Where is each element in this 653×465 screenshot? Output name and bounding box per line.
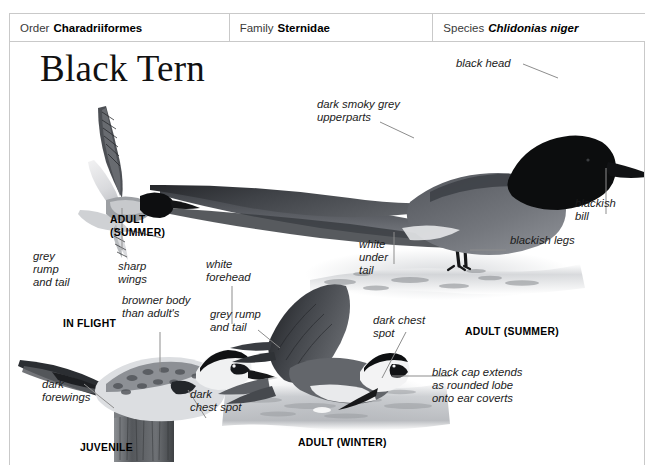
label-sharp-wings: sharp wings xyxy=(118,260,147,286)
taxonomy-header: Order Charadriiformes Family Sternidae S… xyxy=(9,13,645,42)
label-grey-rump-tail-flight: grey rump and tail xyxy=(33,250,69,290)
label-dark-forewings: dark forewings xyxy=(42,378,90,404)
label-dark-chest-spot-juv: dark chest spot xyxy=(190,388,242,414)
taxonomy-value-family: Sternidae xyxy=(278,22,330,34)
taxonomy-value-species: Chlidonias niger xyxy=(488,22,578,34)
taxonomy-cell-family: Family Sternidae xyxy=(229,14,433,41)
label-white-forehead: white forehead xyxy=(206,258,251,284)
label-black-cap-extends: black cap extends as rounded lobe onto e… xyxy=(432,366,522,406)
caption-juvenile: JUVENILE xyxy=(80,442,133,455)
caption-adult-summer: ADULT (SUMMER) xyxy=(465,326,559,339)
label-browner-body: browner body than adult's xyxy=(122,294,190,320)
label-white-under-tail: white under tail xyxy=(359,238,388,278)
illustration-plate: Black Tern xyxy=(9,42,645,465)
label-dark-chest-spot-winter: dark chest spot xyxy=(373,314,425,340)
taxonomy-label-species: Species xyxy=(443,22,484,34)
label-grey-rump-tail-winter: grey rump and tail xyxy=(210,308,261,334)
label-dark-smoky-grey: dark smoky grey upperparts xyxy=(317,98,400,124)
taxonomy-value-order: Charadriiformes xyxy=(53,22,142,34)
label-blackish-legs: blackish legs xyxy=(510,234,575,247)
taxonomy-cell-species: Species Chlidonias niger xyxy=(432,14,645,41)
label-blackish-bill: blackish bill xyxy=(575,197,616,223)
taxonomy-label-family: Family xyxy=(240,22,274,34)
label-black-head: black head xyxy=(456,57,511,70)
caption-adult-summer-flight: ADULT (SUMMER) xyxy=(110,214,165,239)
adult-winter-bird xyxy=(218,284,450,432)
taxonomy-cell-order: Order Charadriiformes xyxy=(10,14,229,41)
caption-adult-winter: ADULT (WINTER) xyxy=(298,437,387,450)
field-guide-page: Order Charadriiformes Family Sternidae S… xyxy=(0,0,653,465)
caption-in-flight: IN FLIGHT xyxy=(63,318,116,331)
taxonomy-label-order: Order xyxy=(20,22,49,34)
